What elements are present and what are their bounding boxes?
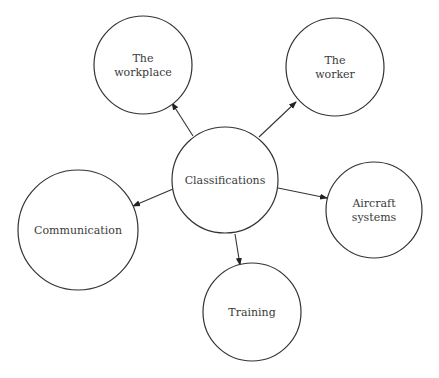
arrow-to-training	[235, 234, 240, 265]
arrow-to-worker	[259, 102, 296, 137]
node-aircraft-systems-label: Aircraft	[351, 197, 396, 210]
node-training-label: Training	[228, 306, 275, 319]
node-workplace: Theworkplace	[94, 16, 192, 114]
node-classifications-label: Classifications	[185, 174, 266, 187]
node-worker: Theworker	[286, 18, 384, 116]
node-worker-label: worker	[315, 68, 355, 81]
arrow-to-aircraft-systems	[278, 188, 327, 198]
node-communication-label: Communication	[34, 224, 122, 237]
concept-diagram: ClassificationsTheworkplaceTheworkerComm…	[0, 0, 439, 378]
node-worker-circle	[286, 18, 384, 116]
nodes-group: ClassificationsTheworkplaceTheworkerComm…	[18, 16, 422, 361]
node-classifications: Classifications	[172, 127, 278, 233]
arrow-to-workplace	[172, 103, 193, 136]
node-workplace-circle	[94, 16, 192, 114]
node-training: Training	[203, 263, 301, 361]
arrow-to-communication	[133, 189, 173, 206]
node-workplace-label: The	[133, 52, 154, 65]
node-aircraft-systems: Aircraftsystems	[326, 162, 422, 258]
node-worker-label: The	[325, 54, 346, 67]
node-aircraft-systems-label: systems	[352, 211, 397, 224]
node-communication: Communication	[18, 170, 138, 290]
node-workplace-label: workplace	[114, 66, 172, 79]
node-aircraft-systems-circle	[326, 162, 422, 258]
